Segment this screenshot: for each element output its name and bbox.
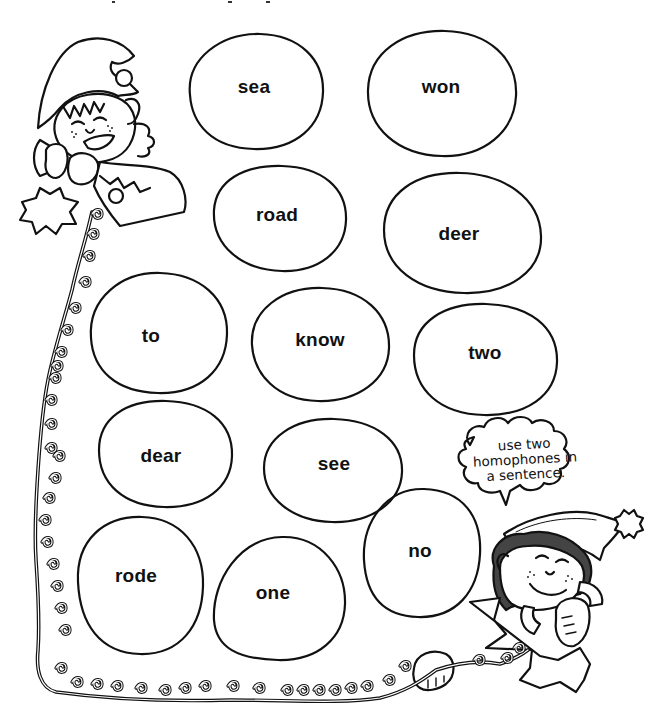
word-to: to [142,325,160,347]
word-two: two [468,342,501,364]
homophones-worksheet: sea won road deer to know two dear see r… [0,0,666,725]
word-sea: sea [238,76,270,98]
word-rode: rode [115,565,157,587]
word-no: no [408,540,432,562]
word-see: see [318,453,350,475]
word-deer: deer [439,223,480,245]
word-one: one [256,582,290,604]
speech-bubble-text: use two homophones in a sentence. [469,434,581,485]
word-won: won [422,76,461,98]
elf-top-left [20,38,185,234]
word-road: road [256,204,298,226]
word-know: know [295,329,344,351]
word-dear: dear [141,445,182,467]
